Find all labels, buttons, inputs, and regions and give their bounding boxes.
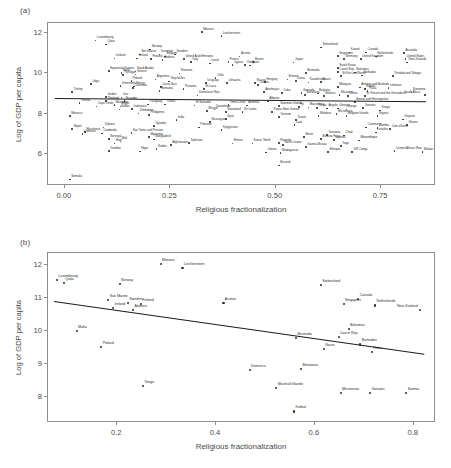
data-point-label: Pakistan xyxy=(200,123,211,126)
data-point xyxy=(76,330,78,332)
data-point-label: Congo xyxy=(348,105,357,108)
data-point xyxy=(71,128,73,130)
data-point-label: Libya xyxy=(92,80,99,83)
data-point xyxy=(131,132,133,134)
data-point xyxy=(150,58,152,60)
data-point-label: Seychelles xyxy=(171,77,185,80)
y-tick-mark xyxy=(44,363,47,364)
data-point xyxy=(131,108,133,110)
data-point xyxy=(320,138,322,140)
data-point-label: Uruguay xyxy=(207,79,218,82)
data-point xyxy=(108,150,110,152)
data-point xyxy=(364,88,366,90)
data-point-label: Oman xyxy=(247,61,255,64)
data-point-label: Micronesia xyxy=(342,388,359,392)
data-point-label: Estonia xyxy=(289,75,299,78)
data-point xyxy=(148,114,150,116)
data-point-label: Andorra xyxy=(164,56,175,59)
data-point-label: Mozambique xyxy=(360,136,377,139)
data-point xyxy=(422,151,424,153)
data-point xyxy=(249,369,251,371)
data-point-label: Bermuda xyxy=(307,69,319,72)
data-point-label: Botswana xyxy=(302,364,317,368)
data-point xyxy=(371,351,373,353)
y-tick-label: 10 xyxy=(20,68,42,77)
x-tick-label: 0.6 xyxy=(299,428,329,437)
data-point-label: Samoa xyxy=(408,388,419,392)
data-point xyxy=(300,368,302,370)
data-point-label: Ethiopia xyxy=(330,148,341,151)
data-point-label: Trinidad and Tobago xyxy=(394,72,421,75)
data-point-label: Botswana xyxy=(306,91,319,94)
data-point-label: Angola xyxy=(328,104,337,107)
data-point xyxy=(160,263,162,265)
data-point-label: Lebanon xyxy=(390,84,402,87)
x-tick-label: 0.2 xyxy=(101,428,131,437)
data-point xyxy=(71,91,73,93)
data-point xyxy=(402,119,404,121)
data-point xyxy=(347,95,349,97)
x-tick-label: 0.4 xyxy=(200,428,230,437)
data-point-label: Sri Lanka xyxy=(244,108,256,111)
data-point-label: Argentina xyxy=(157,75,170,78)
panel-a-tag: (a) xyxy=(20,6,30,15)
data-point-label: Andorra xyxy=(134,305,146,309)
data-point-label: Eritrea xyxy=(234,139,243,142)
data-point-label: Tonga xyxy=(144,381,154,385)
data-point-label: Barbados xyxy=(362,339,377,343)
data-point-label: Slovenia xyxy=(181,69,192,72)
x-tick-label: 0.50 xyxy=(260,191,290,200)
data-point-label: Chad xyxy=(345,131,352,134)
data-point-label: Liechtenstein xyxy=(223,32,240,35)
data-point xyxy=(201,31,203,33)
data-point xyxy=(271,111,273,113)
data-point xyxy=(198,127,200,129)
data-point xyxy=(147,104,149,106)
data-point-label: United Kingdom xyxy=(362,55,383,58)
data-point xyxy=(392,75,394,77)
data-point-label: Haiti xyxy=(116,139,122,142)
data-point-label: Qatar xyxy=(65,278,74,282)
data-point xyxy=(108,70,110,72)
data-point-label: Ghana xyxy=(409,121,418,124)
data-point-label: Swaziland xyxy=(227,108,240,111)
data-point xyxy=(343,303,345,305)
data-point xyxy=(122,74,124,76)
data-point xyxy=(69,115,71,117)
data-point-label: Switzerland xyxy=(322,280,340,284)
data-point xyxy=(293,410,295,412)
data-point-label: Vietnam xyxy=(280,113,291,116)
data-point-label: Malaysia xyxy=(339,83,351,86)
data-point-label: Liberia xyxy=(268,148,277,151)
data-point-label: New Zealand xyxy=(397,305,418,309)
data-point-label: Kenya xyxy=(382,106,390,109)
x-tick-label: 0.8 xyxy=(398,428,428,437)
data-point-label: Cuba xyxy=(283,89,290,92)
data-point-label: Romania xyxy=(161,87,173,90)
figure-root: (a) Log of GDP per capita Religious frac… xyxy=(0,0,451,468)
data-point xyxy=(351,151,353,153)
x-tick-mark xyxy=(116,422,117,425)
data-point xyxy=(295,80,297,82)
data-point-label: Qatar xyxy=(107,40,114,43)
data-point xyxy=(343,58,345,60)
data-point-label: Austria xyxy=(225,298,236,302)
panel-a: (a) Log of GDP per capita Religious frac… xyxy=(0,0,451,234)
data-point-label: Armenia xyxy=(248,101,259,104)
data-point-label: Norway xyxy=(152,45,162,48)
data-point-label: DR Congo xyxy=(354,148,368,151)
data-point-label: Madagascar xyxy=(282,149,298,152)
data-point xyxy=(246,105,248,107)
data-point-label: Lesotho xyxy=(377,128,388,131)
data-point-label: Tuvalu xyxy=(297,116,306,119)
data-point xyxy=(405,58,407,60)
y-tick-label: 12 xyxy=(20,28,42,37)
data-point xyxy=(337,71,339,73)
data-point xyxy=(206,110,208,112)
y-tick-label: 8 xyxy=(20,392,42,401)
data-point xyxy=(304,94,306,96)
data-point xyxy=(320,284,322,286)
data-point-label: Singapore xyxy=(345,299,361,303)
data-point xyxy=(403,52,405,54)
data-point-label: Lithuania xyxy=(228,79,240,82)
